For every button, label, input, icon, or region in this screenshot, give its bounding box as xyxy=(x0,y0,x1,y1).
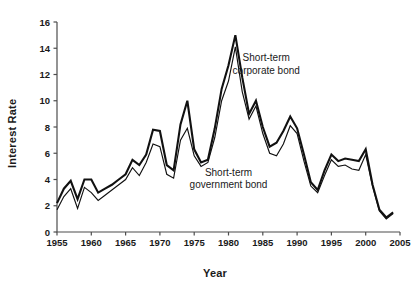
y-tick-label-4: 4 xyxy=(45,174,51,185)
y-tick-label-10: 10 xyxy=(39,95,50,106)
corporate-label-line2: corporate bond xyxy=(233,65,300,76)
corporate-label: Short-termcorporate bond xyxy=(233,52,300,76)
y-tick-label-0: 0 xyxy=(45,227,50,238)
government-label: Short-termgovernment bond xyxy=(190,167,268,191)
x-axis-tick-labels: 1955196019651970197519801985199019952000… xyxy=(46,237,411,248)
government-label-line2: government bond xyxy=(190,179,268,190)
y-axis-title: Interest Rate xyxy=(6,99,18,168)
axis-lines xyxy=(57,22,400,232)
x-tick-label-2005: 2005 xyxy=(389,237,411,248)
x-tick-label-1980: 1980 xyxy=(218,237,239,248)
x-tick-label-1985: 1985 xyxy=(252,237,274,248)
x-tick-label-1970: 1970 xyxy=(149,237,170,248)
government-label-line1: Short-term xyxy=(205,167,252,178)
interest-rate-chart: 0246810121416 19551960196519701975198019… xyxy=(0,0,418,289)
x-tick-label-2000: 2000 xyxy=(355,237,376,248)
x-tick-label-1955: 1955 xyxy=(46,237,68,248)
y-tick-label-2: 2 xyxy=(45,200,50,211)
x-tick-label-1965: 1965 xyxy=(115,237,137,248)
x-tick-label-1990: 1990 xyxy=(287,237,308,248)
series-line-short-term-government-bond xyxy=(57,47,393,219)
y-tick-label-8: 8 xyxy=(45,122,50,133)
y-tick-label-16: 16 xyxy=(39,17,50,28)
y-tick-label-14: 14 xyxy=(39,43,50,54)
y-tick-label-6: 6 xyxy=(45,148,50,159)
annotations: Short-termcorporate bondShort-termgovern… xyxy=(190,52,300,190)
chart-canvas: 0246810121416 19551960196519701975198019… xyxy=(0,0,418,289)
x-axis-title: Year xyxy=(203,267,228,279)
x-tick-label-1995: 1995 xyxy=(321,237,343,248)
x-tick-label-1960: 1960 xyxy=(81,237,102,248)
series-line-short-term-corporate-bond xyxy=(57,35,393,217)
axes xyxy=(54,22,401,236)
y-tick-label-12: 12 xyxy=(39,69,50,80)
x-tick-label-1975: 1975 xyxy=(184,237,206,248)
data-series xyxy=(57,35,393,219)
y-axis-tick-labels: 0246810121416 xyxy=(39,17,50,238)
corporate-label-line1: Short-term xyxy=(243,52,290,63)
